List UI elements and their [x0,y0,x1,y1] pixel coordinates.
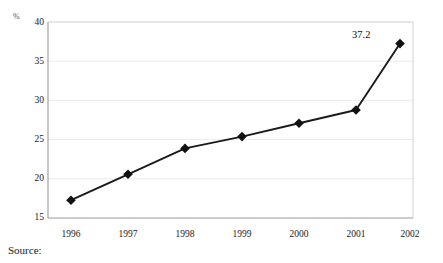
source-note: Source: [8,243,42,257]
x-tick-label: 2002 [388,228,432,240]
x-tick-label: 1996 [49,228,93,240]
x-tick-label: 1999 [220,228,264,240]
x-tick-label: 1997 [106,228,150,240]
x-axis-tick-labels: 1996 1997 1998 1999 2000 2001 2002 [0,0,443,263]
x-tick-label: 2000 [277,228,321,240]
x-tick-label: 2001 [334,228,378,240]
line-chart-figure: % 40 35 30 25 20 15 [0,0,443,263]
x-tick-label: 1998 [163,228,207,240]
